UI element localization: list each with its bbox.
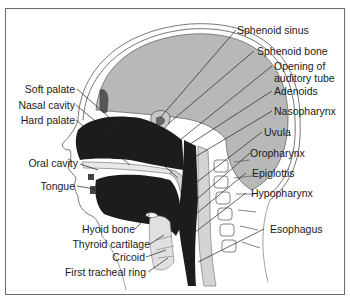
larynx (149, 216, 174, 270)
label-hypopharynx: Hypopharynx (251, 188, 313, 199)
label-oral-cavity: Oral cavity (28, 158, 78, 169)
label-hard-palate: Hard palate (21, 115, 75, 126)
label-nasal-cavity: Nasal cavity (18, 100, 75, 111)
pharynx-wall (198, 146, 216, 286)
label-nasopharynx: Nasopharynx (274, 106, 336, 117)
label-sphenoid-bone: Sphenoid bone (257, 46, 328, 57)
label-oropharynx: Oropharynx (250, 148, 305, 159)
label-first-tracheal-ring: First tracheal ring (65, 267, 146, 278)
label-esophagus: Esophagus (270, 224, 323, 235)
label-auditory-tube: auditory tube (274, 73, 335, 84)
label-hyoid-bone: Hyoid bone (82, 224, 135, 235)
label-tongue: Tongue (41, 181, 75, 192)
label-opening-of: Opening of (274, 61, 325, 72)
label-thyroid-cartilage: Thyroid cartilage (72, 239, 150, 250)
label-epiglottis: Epiglottis (252, 168, 295, 179)
label-adenoids: Adenoids (274, 86, 318, 97)
label-uvula: Uvula (264, 127, 291, 138)
label-sphenoid-sinus: Sphenoid sinus (237, 25, 309, 36)
label-soft-palate: Soft palate (25, 84, 75, 95)
label-cricoid: Cricoid (112, 252, 145, 263)
frontal-sinus (100, 89, 108, 112)
